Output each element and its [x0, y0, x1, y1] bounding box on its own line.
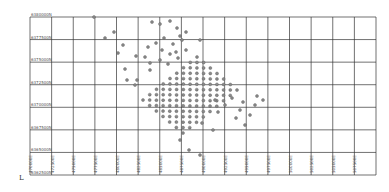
y-tick-label: 6367500N — [31, 125, 52, 130]
x-tick-label: 472500E — [50, 155, 55, 173]
data-point — [222, 99, 225, 102]
data-point — [135, 55, 138, 58]
data-point — [199, 39, 202, 42]
data-point — [182, 99, 185, 102]
data-point — [175, 77, 178, 80]
data-point — [185, 49, 188, 52]
data-point — [262, 99, 265, 102]
data-point — [188, 121, 191, 124]
data-point — [201, 122, 204, 125]
x-tick-label: 485000E — [158, 155, 163, 173]
data-point — [155, 99, 158, 102]
data-point — [185, 31, 188, 34]
data-point — [188, 126, 191, 129]
data-point — [104, 37, 107, 40]
data-point — [202, 110, 205, 113]
data-point — [195, 110, 198, 113]
data-point — [144, 56, 147, 59]
data-point — [122, 44, 125, 47]
data-point — [182, 115, 185, 118]
data-point — [175, 93, 178, 96]
data-point — [155, 42, 158, 45]
y-axis-labels: 6380000N6377500N6375000N6372500N6370000N… — [31, 12, 52, 175]
data-point — [215, 105, 218, 108]
data-point — [155, 110, 158, 113]
scatter-chart: 6380000N6377500N6375000N6372500N6370000N… — [0, 0, 389, 192]
data-point — [182, 93, 185, 96]
data-point — [195, 88, 198, 91]
data-point — [162, 88, 165, 91]
y-tick-label: 6380000N — [31, 12, 52, 17]
data-point — [155, 88, 158, 91]
data-point — [222, 94, 225, 97]
data-point — [215, 83, 218, 86]
data-point — [175, 126, 178, 129]
y-tick-label: 6365000N — [31, 147, 52, 152]
data-point — [182, 110, 185, 113]
data-point — [229, 88, 232, 91]
data-point — [162, 104, 165, 107]
data-point — [195, 94, 198, 97]
data-point — [167, 63, 170, 66]
data-point — [172, 43, 175, 46]
data-point — [182, 83, 185, 86]
data-point — [188, 110, 191, 113]
data-point — [195, 61, 198, 64]
x-tick-label: 500000E — [288, 155, 293, 173]
data-point — [175, 51, 178, 54]
data-point — [188, 104, 191, 107]
data-point — [202, 99, 205, 102]
data-point — [209, 105, 212, 108]
y-tick-label: 6372500N — [31, 80, 52, 85]
data-point — [235, 117, 238, 120]
data-point — [229, 83, 232, 86]
data-point — [209, 88, 212, 91]
data-point — [175, 99, 178, 102]
data-point — [256, 95, 259, 98]
x-tick-label: 490000E — [201, 155, 206, 173]
data-point — [179, 35, 182, 38]
data-point — [159, 23, 162, 26]
data-point — [188, 99, 191, 102]
x-tick-label: 507500E — [352, 155, 357, 173]
data-point — [162, 99, 165, 102]
data-point — [239, 109, 242, 112]
data-point — [136, 79, 139, 82]
data-point — [168, 121, 171, 124]
x-tick-label: 475000E — [71, 155, 76, 173]
data-point — [177, 57, 180, 60]
data-point — [161, 49, 164, 52]
data-point — [212, 129, 215, 132]
data-point — [142, 99, 145, 102]
data-point — [222, 88, 225, 91]
data-point — [163, 37, 166, 40]
data-point — [195, 72, 198, 75]
data-point — [168, 110, 171, 113]
data-point — [148, 104, 151, 107]
data-point — [182, 66, 185, 69]
data-point — [149, 69, 152, 72]
data-point — [222, 83, 225, 86]
data-point — [209, 77, 212, 80]
data-point — [249, 114, 252, 117]
data-point — [175, 104, 178, 107]
data-point — [148, 93, 151, 96]
data-point — [242, 101, 245, 104]
data-point — [182, 132, 185, 135]
data-point — [162, 110, 165, 113]
data-point — [215, 88, 218, 91]
data-point — [224, 104, 227, 107]
data-point — [175, 88, 178, 91]
data-point — [202, 115, 205, 118]
data-point — [168, 82, 171, 85]
data-point — [149, 62, 152, 65]
data-point — [189, 77, 192, 80]
data-point — [182, 77, 185, 80]
data-point — [168, 88, 171, 91]
data-point — [209, 83, 212, 86]
data-point — [202, 61, 205, 64]
x-tick-label: 477500E — [93, 155, 98, 173]
data-point — [169, 20, 172, 23]
data-point — [189, 83, 192, 86]
data-point — [217, 111, 220, 114]
